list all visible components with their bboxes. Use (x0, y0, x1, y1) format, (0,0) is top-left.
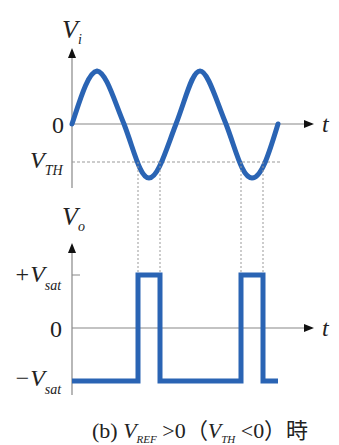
input-plot (72, 50, 312, 188)
caption-cond2: <0）時 (235, 418, 308, 443)
vo-axis-label: Vo (62, 202, 85, 234)
figure-caption: (b) VREF >0（VTH <0）時 (92, 412, 308, 445)
caption-prefix: (b) (92, 418, 123, 443)
caption-cond1: >0（ (157, 418, 208, 443)
t-axis-label-bottom: t (322, 315, 330, 341)
zero-label-bottom: 0 (50, 316, 62, 342)
zero-label-top: 0 (52, 112, 64, 138)
vi-axis-label: Vi (62, 15, 82, 47)
caption-vref: V (123, 418, 136, 443)
caption-vth-sub: TH (221, 433, 235, 445)
projection-lines (138, 162, 263, 275)
neg-sat-label: −Vsat (14, 365, 62, 397)
t-axis-label-top: t (322, 111, 330, 137)
output-plot (72, 245, 312, 395)
pos-sat-label: +Vsat (14, 261, 62, 293)
caption-vth: V (208, 418, 221, 443)
caption-vref-sub: REF (137, 433, 157, 445)
vth-label: VTH (30, 147, 63, 178)
